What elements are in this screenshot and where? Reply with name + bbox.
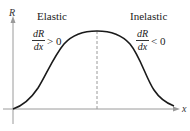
derivative-numerator: dR xyxy=(136,29,149,41)
x-axis-arrow-icon xyxy=(173,107,180,112)
derivative-numerator: dR xyxy=(32,29,45,41)
inelastic-label: Inelastic xyxy=(130,11,167,22)
elastic-derivative: dR dx > 0 xyxy=(32,29,62,52)
elastic-label: Elastic xyxy=(37,11,67,22)
x-axis-label: x xyxy=(182,104,186,114)
derivative-denominator: dx xyxy=(138,41,147,52)
y-axis-label: R xyxy=(9,8,15,18)
inelastic-derivative: dR dx < 0 xyxy=(136,29,166,52)
derivative-relation: > 0 xyxy=(47,35,61,47)
derivative-denominator: dx xyxy=(34,41,43,52)
derivative-relation: < 0 xyxy=(151,35,165,47)
